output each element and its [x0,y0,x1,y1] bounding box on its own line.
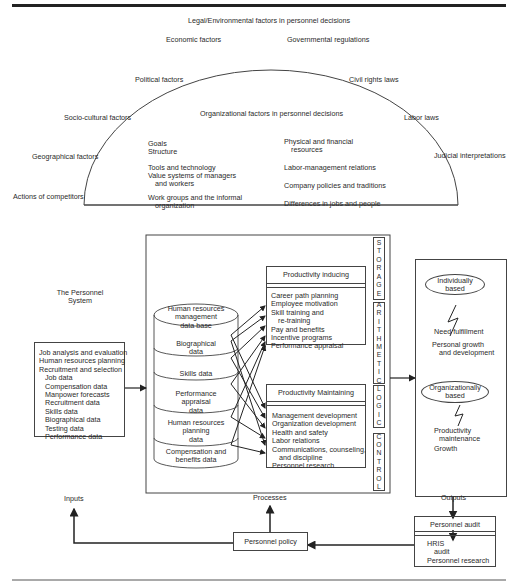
db-seg-line: data [156,436,236,444]
db-seg-line: benefits data [156,456,236,464]
outcome-personal-growth-cont: and development [439,349,494,357]
letter: I [378,368,380,376]
personnel-audit-title: Personnel audit [415,517,495,532]
personnel-audit-box: Personnel audit HRIS audit Personnel res… [414,516,496,567]
individually-based-oval: Individually based [425,274,485,295]
factor-geographical: Geographical factors [32,153,98,161]
db-seg-line: data [156,407,236,415]
org-differences: Differences in jobs and people [284,200,381,208]
outcome-need-fulfillment: Need fulfillment [434,328,484,336]
storage-box: STORAGE [373,237,385,300]
org-physical-cont: resources [291,146,323,154]
audit-item: Personnel research [427,557,495,565]
letter: N [377,449,382,457]
letter: R [377,466,382,474]
letter: R [377,264,382,272]
letter: R [377,309,382,317]
pm-item: Personnel research [272,462,365,470]
factor-labor-laws: Labor laws [404,114,439,122]
letter: A [377,301,382,309]
logic-box: LOGIC [373,385,385,428]
letter: A [377,273,382,281]
letter: E [377,290,382,298]
letter: C [377,377,382,385]
inputs-box: Job analysis and evaluation Human resour… [34,342,125,437]
system-label-line2: System [50,297,110,305]
organization-title: Organizational factors in personnel deci… [200,110,343,118]
processes-label: Processes [253,494,287,502]
db-top-line: data base [156,322,236,330]
letter: L [377,483,381,491]
personnel-policy-label: Personnel policy [244,537,297,546]
productivity-maintaining-box: Productivity Maintaining Management deve… [266,384,366,468]
top-rule [12,4,506,7]
personnel-policy-box: Personnel policy [233,532,308,551]
outcome-growth: Growth [434,445,457,453]
letter: T [377,360,381,368]
db-seg-line: Skills data [156,370,236,378]
arithmetic-box: ARITHMETIC [373,302,385,384]
factor-judicial: Judicial interpretations [434,152,506,160]
letter: O [376,256,381,264]
org-policies: Company policies and traditions [284,182,386,190]
factor-political: Political factors [135,76,183,84]
factor-socio-cultural: Socio-cultural factors [64,114,131,122]
letter: M [376,343,382,351]
org-labor-mgmt: Labor-management relations [284,164,376,172]
outcome-productivity-cont: maintenance [439,435,480,443]
factor-economic: Economic factors [166,36,221,44]
organizationally-based-oval: Organizationally based [421,381,489,403]
letter: T [377,247,381,255]
org-structure: Structure [148,148,177,156]
organization-semicircle [84,70,458,205]
db-segment-hr-planning: Human resources planning data [156,419,236,444]
inputs-label: Inputs [64,495,84,503]
factor-competitors: Actions of competitors [13,193,84,201]
db-seg-line: data [156,348,236,356]
control-box: CONTROL [373,433,385,491]
db-top-label: Human resources management data base [156,305,236,330]
input-item: Performance data [39,433,124,441]
letter: L [377,385,381,393]
factor-civil-rights: Civil rights laws [349,76,399,84]
outputs-label: Outputs [441,494,466,502]
letter: O [376,475,381,483]
system-label: The Personnel System [50,289,110,306]
db-segment-compensation: Compensation and benefits data [156,448,236,465]
productivity-inducing-title: Productivity inducing [267,267,365,284]
letter: G [376,281,381,289]
letter: H [377,335,382,343]
letter: T [377,458,381,466]
letter: I [378,318,380,326]
letter: E [377,351,382,359]
letter: O [376,394,381,402]
oval-line: based [426,285,484,293]
letter: O [376,441,381,449]
org-workgroups-cont: organization [155,202,194,210]
factor-governmental: Governmental regulations [287,36,369,44]
db-segment-skills: Skills data [156,370,236,378]
letter: C [377,433,382,441]
letter: I [378,411,380,419]
letter: C [377,419,382,427]
letter: G [376,402,381,410]
db-segment-biographical: Biographical data [156,340,236,357]
productivity-maintaining-title: Productivity Maintaining [267,385,365,402]
letter: T [377,326,381,334]
db-segment-performance: Performance appraisal data [156,390,236,415]
letter: S [377,239,382,247]
environment-title: Legal/Environmental factors in personnel… [188,17,350,25]
org-values-cont: and workers [155,180,194,188]
productivity-inducing-box: Productivity inducing Career path planni… [266,266,366,345]
oval-line: based [422,392,488,400]
pi-item: Performance appraisal [271,342,365,350]
